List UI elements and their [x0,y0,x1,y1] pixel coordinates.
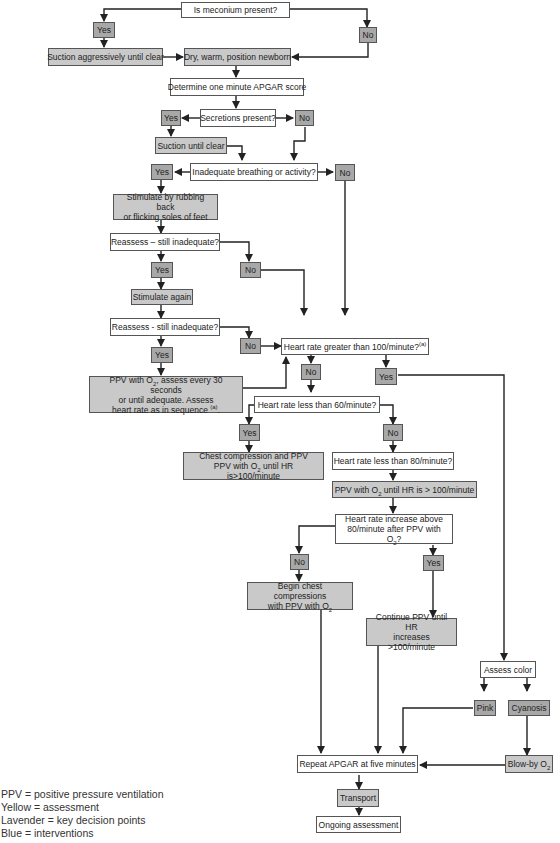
node-label: Inadequate breathing or activity? [192,167,315,177]
node-label: Yes [155,265,169,275]
text: until HR is > 100/minute [381,485,474,495]
text: , assess every 30 seconds [150,375,222,395]
blow-by-o2: Blow-by O2 [505,755,553,773]
hr60-no: No [383,424,403,441]
node-label: Reassess - still inadequate? [112,322,218,332]
node-label: heart rate as in sequence (a). [112,405,220,415]
text: heart rate as in sequence [112,405,210,415]
reassess2-no: No [240,338,261,354]
node-label: Ongoing assessment [319,820,399,830]
node-label: Repeat APGAR at five minutes [299,759,415,769]
node-label: Determine one minute APGAR score [168,82,306,92]
reassess1-no: No [240,262,261,278]
node-label: Stimulate by rubbing back [117,192,214,212]
reassess1-yes: Yes [151,262,173,278]
text: . [218,405,220,415]
reassess-question-1: Reassess – still inadequate? [110,233,220,251]
node-label: No [245,341,256,351]
node-label: No [340,168,351,178]
meconium-yes: Yes [93,22,115,38]
node-label: Heart rate less than 80/minute? [334,456,453,466]
node-label: PPV with O2, assess every 30 seconds [93,375,239,395]
node-label: Pink [477,703,494,713]
node-label: Yes [155,350,169,360]
suction-aggressively: Suction aggressively until clear [48,48,163,66]
node-label: increases >100/minute [370,632,453,652]
hr100-yes: Yes [375,368,397,385]
assess-color: Assess color [480,661,536,678]
node-label: Dry, warm, position newborn [184,52,291,62]
stimulate-again: Stimulate again [131,289,193,305]
text: PPV with O [110,375,153,385]
one-minute-apgar: Determine one minute APGAR score [170,78,304,96]
meconium-no: No [359,27,377,43]
transport: Transport [337,789,379,807]
node-label: Suction until clear [157,141,224,151]
repeat-apgar-five-minutes: Repeat APGAR at five minutes [297,755,418,773]
node-label: Transport [340,793,376,803]
node-label: Yes [155,167,169,177]
text: Heart rate greater than 100/minute? [284,342,419,352]
superscript: (a) [210,404,217,410]
node-label: Chest compression and PPV [199,451,308,461]
dry-warm-position: Dry, warm, position newborn [184,48,291,66]
secretions-yes: Yes [161,110,181,126]
node-label: PPV with O2 until HR is > 100/minute [335,485,475,495]
ppv-assess-every-30s: PPV with O2, assess every 30 seconds or … [89,376,243,413]
node-label: Secretions present? [200,113,276,123]
hrinc-yes: Yes [423,555,444,571]
text: with PPV with O [268,601,329,611]
text: PPV with O [214,461,257,471]
node-label: 80/minute after PPV with O2? [339,524,449,544]
node-label: Heart rate less than 60/minute? [258,400,377,410]
node-label: Begin chest compressions [251,581,349,601]
inadequate-no: No [335,164,355,181]
text: PPV with O [335,485,378,495]
ongoing-assessment: Ongoing assessment [316,816,401,833]
node-label: Reassess – still inadequate? [111,237,219,247]
hr-less-60-question: Heart rate less than 60/minute? [254,396,380,413]
node-label: with PPV with O2 [268,601,332,611]
node-label: Heart rate greater than 100/minute?(a) [284,342,426,352]
chest-compression-ppv: Chest compression and PPV PPV with O2 un… [183,452,324,480]
text: Blow-by O [508,759,547,769]
node-label: Stimulate again [133,292,192,302]
color-cyanosis: Cyanosis [508,700,550,716]
node-label: No [245,265,256,275]
reassess-question-2: Reassess - still inadequate? [110,318,220,336]
reassess2-yes: Yes [151,347,173,363]
hr-increase-question: Heart rate increase above 80/minute afte… [335,514,453,544]
node-label: No [363,30,374,40]
legend: PPV = positive pressure ventilation Yell… [1,788,164,840]
node-label: Yes [427,558,441,568]
stimulate-rubbing: Stimulate by rubbing back or flicking so… [113,194,218,220]
node-label: or until adequate. Assess [119,395,214,405]
subscript: 2 [329,607,332,613]
node-label: Assess color [484,665,532,675]
node-label: Yes [164,113,178,123]
meconium-question: Is meconium present? [181,2,290,18]
ppv-until-hr-100: PPV with O2 until HR is > 100/minute [332,481,477,498]
node-label: No [299,113,310,123]
text: ? [397,534,402,544]
connector-arrows [0,0,560,843]
hr-less-80-question: Heart rate less than 80/minute? [332,452,454,470]
legend-assessment: Yellow = assessment [1,801,164,814]
secretions-question: Secretions present? [200,109,276,127]
node-label: Is meconium present? [194,5,278,15]
hrinc-no: No [290,554,309,570]
node-label: Yes [97,25,111,35]
node-label: Cyanosis [512,703,547,713]
node-label: No [306,367,317,377]
inadequate-yes: Yes [151,164,173,180]
node-label: Continue PPV until HR [370,612,453,632]
hr100-no: No [301,364,321,380]
node-label: PPV with O2 until HR is>100/minute [187,461,320,481]
node-label: Blow-by O2 [508,759,551,769]
continue-ppv: Continue PPV until HR increases >100/min… [366,618,457,646]
secretions-no: No [295,110,314,126]
legend-interventions: Blue = interventions [1,827,164,840]
node-label: Yes [379,372,393,382]
node-label: No [388,428,399,438]
node-label: or flicking soles of feet [123,212,207,222]
